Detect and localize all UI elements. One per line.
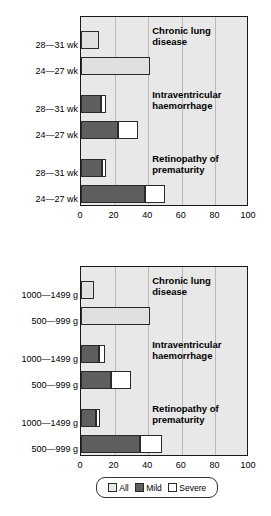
x-axis-tick-label: 60 xyxy=(176,460,186,470)
bar-row xyxy=(81,307,249,325)
y-axis-tick-label: 24—27 wk xyxy=(35,194,80,204)
legend-item: Severe xyxy=(168,483,206,493)
bar-row xyxy=(81,371,249,389)
group-annotation: Retinopathy of prematurity xyxy=(152,404,219,425)
y-axis-tick-label: 1000—1499 g xyxy=(21,354,80,364)
x-axis-tick-label: 0 xyxy=(77,460,82,470)
bar-segment-severe xyxy=(140,435,162,453)
bar-segment-severe xyxy=(101,95,106,113)
bar-row xyxy=(81,185,249,203)
bar-segment-severe xyxy=(118,121,138,139)
y-axis-tick: 28—31 wk xyxy=(0,162,80,180)
bar-row xyxy=(81,57,249,75)
group-annotation: Retinopathy of prematurity xyxy=(152,154,219,175)
x-axis-tick-label: 60 xyxy=(176,210,186,220)
bar-segment-mild xyxy=(81,345,99,363)
y-axis-tick: 28—31 wk xyxy=(0,34,80,52)
bar-segment-mild xyxy=(81,185,145,203)
y-axis-tick-label: 24—27 wk xyxy=(35,66,80,76)
legend-swatch-severe xyxy=(168,483,177,492)
legend-label: All xyxy=(119,483,128,493)
y-axis-tick: 1000—1499 g xyxy=(0,348,80,366)
y-axis-tick-label: 28—31 wk xyxy=(35,104,80,114)
y-axis-tick-label: 28—31 wk xyxy=(35,168,80,178)
chart-legend: AllMildSevere xyxy=(96,477,218,498)
x-axis-top: 020406080100 xyxy=(80,208,248,230)
x-axis-tick-label: 80 xyxy=(209,460,219,470)
group-annotation: Intraventricular haemorrhage xyxy=(152,90,221,111)
x-axis-tick-label: 100 xyxy=(240,460,255,470)
y-axis-tick: 1000—1499 g xyxy=(0,284,80,302)
x-axis-tick-label: 0 xyxy=(77,210,82,220)
bar-segment-all xyxy=(81,31,99,49)
y-axis-tick: 28—31 wk xyxy=(0,98,80,116)
group-annotation: Chronic lung disease xyxy=(152,276,211,297)
x-axis-tick-label: 40 xyxy=(142,210,152,220)
y-axis-tick-label: 500—999 g xyxy=(31,380,80,390)
y-axis-tick: 500—999 g xyxy=(0,310,80,328)
bar-segment-mild xyxy=(81,159,102,177)
bar-segment-severe xyxy=(96,409,100,427)
legend-swatch-mild xyxy=(135,483,144,492)
legend-item: All xyxy=(108,483,129,493)
x-axis-tick-label: 20 xyxy=(109,210,119,220)
bar-row xyxy=(81,121,249,139)
bar-segment-mild xyxy=(81,95,101,113)
bar-segment-mild xyxy=(81,409,96,427)
y-axis-tick: 24—27 wk xyxy=(0,60,80,78)
legend-item: Mild xyxy=(135,483,162,493)
bar-segment-severe xyxy=(99,345,104,363)
bar-segment-severe xyxy=(102,159,106,177)
y-axis-tick-label: 1000—1499 g xyxy=(21,418,80,428)
y-axis-tick-label: 24—27 wk xyxy=(35,130,80,140)
y-axis-tick-label: 500—999 g xyxy=(31,444,80,454)
bar-segment-mild xyxy=(81,371,111,389)
bar-segment-all xyxy=(81,307,150,325)
x-axis-tick-label: 20 xyxy=(109,460,119,470)
x-axis-tick-label: 100 xyxy=(240,210,255,220)
y-axis-tick-label: 500—999 g xyxy=(31,316,80,326)
bar-segment-severe xyxy=(111,371,131,389)
y-axis-tick: 1000—1499 g xyxy=(0,412,80,430)
bar-segment-mild xyxy=(81,121,118,139)
y-axis-tick: 500—999 g xyxy=(0,438,80,456)
group-annotation: Intraventricular haemorrhage xyxy=(152,340,221,361)
y-axis-tick: 24—27 wk xyxy=(0,124,80,142)
legend-label: Mild xyxy=(146,483,162,493)
bar-segment-mild xyxy=(81,435,140,453)
bar-row xyxy=(81,435,249,453)
legend-swatch-all xyxy=(108,483,117,492)
group-annotation: Chronic lung disease xyxy=(152,26,211,47)
bar-segment-all xyxy=(81,281,94,299)
legend-label: Severe xyxy=(179,483,206,493)
bar-segment-severe xyxy=(145,185,165,203)
y-axis-tick-label: 28—31 wk xyxy=(35,40,80,50)
x-axis-tick-label: 40 xyxy=(142,460,152,470)
y-axis-tick-label: 1000—1499 g xyxy=(21,290,80,300)
y-axis-tick: 500—999 g xyxy=(0,374,80,392)
y-axis-tick: 24—27 wk xyxy=(0,188,80,206)
chart-panel-top: 28—31 wk24—27 wk28—31 wk24—27 wk28—31 wk… xyxy=(0,0,271,252)
bar-segment-all xyxy=(81,57,150,75)
x-axis-tick-label: 80 xyxy=(209,210,219,220)
